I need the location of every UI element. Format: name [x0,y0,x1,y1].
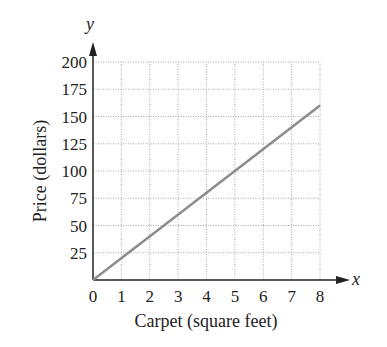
y-tick-label: 200 [62,53,88,72]
x-tick-label: 3 [174,287,183,306]
y-tick-label: 175 [62,80,88,99]
y-tick-label: 125 [62,135,88,154]
x-axis-arrow-icon [336,276,350,284]
x-tick-label: 1 [117,287,126,306]
x-tick-label: 2 [146,287,155,306]
x-tick-label: 5 [231,287,240,306]
x-axis-label: Carpet (square feet) [135,311,278,332]
line-chart: 255075100125150175200 012345678 y x Carp… [0,0,387,347]
x-tick-label: 0 [89,287,98,306]
y-tick-label: 100 [62,162,88,181]
x-axis-variable: x [351,269,360,289]
y-tick-labels: 255075100125150175200 [62,53,88,263]
axes [89,42,350,284]
x-tick-label: 6 [259,287,268,306]
y-tick-label: 50 [70,217,87,236]
x-tick-label: 7 [287,287,296,306]
x-tick-label: 4 [202,287,211,306]
y-axis-variable: y [84,14,94,34]
x-tick-labels: 012345678 [89,287,325,306]
x-tick-label: 8 [316,287,325,306]
y-tick-label: 150 [62,108,88,127]
y-axis-label: Price (dollars) [30,120,51,222]
y-tick-label: 75 [70,189,87,208]
y-axis-arrow-icon [89,42,97,56]
grid [93,62,320,280]
y-tick-label: 25 [70,244,87,263]
